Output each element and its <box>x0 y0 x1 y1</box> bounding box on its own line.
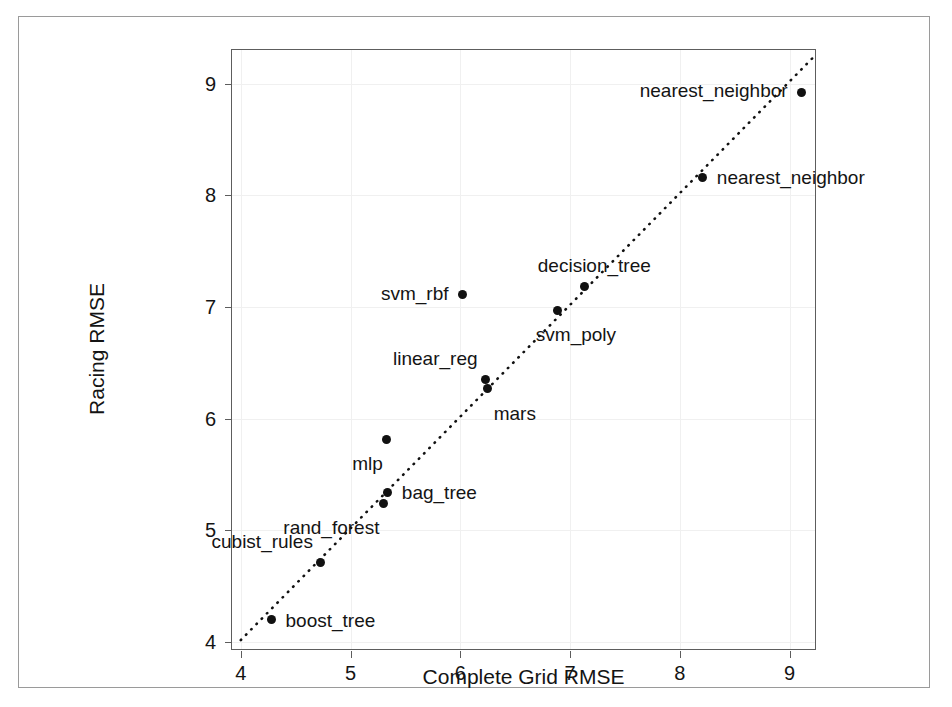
y-axis-tick-label: 6 <box>205 407 216 430</box>
point-label: cubist_rules <box>212 531 313 550</box>
y-axis-tick-label: 8 <box>205 184 216 207</box>
data-point[interactable] <box>458 290 467 299</box>
x-axis-tick <box>460 651 461 658</box>
point-label: boost_tree <box>286 610 376 629</box>
y-axis-tick <box>225 307 232 308</box>
data-point[interactable] <box>383 488 392 497</box>
data-point[interactable] <box>267 615 276 624</box>
gridline-vertical <box>790 50 791 649</box>
x-axis-tick <box>680 651 681 658</box>
data-point[interactable] <box>316 558 325 567</box>
y-axis-tick-label: 9 <box>205 72 216 95</box>
point-label: svm_poly <box>536 325 616 344</box>
y-axis-tick <box>225 84 232 85</box>
data-point[interactable] <box>797 88 806 97</box>
point-label: svm_rbf <box>381 283 449 302</box>
point-label: bag_tree <box>402 483 477 502</box>
gridline-vertical <box>680 50 681 649</box>
data-point[interactable] <box>698 173 707 182</box>
point-label: nearest_neighbor <box>717 168 865 187</box>
data-point[interactable] <box>382 435 391 444</box>
gridline-horizontal <box>232 642 815 643</box>
y-axis-tick <box>225 642 232 643</box>
point-label: decision_tree <box>538 255 651 274</box>
x-axis-tick <box>570 651 571 658</box>
y-axis-tick <box>225 419 232 420</box>
point-label: mars <box>494 404 536 423</box>
x-axis-tick <box>790 651 791 658</box>
data-point[interactable] <box>483 384 492 393</box>
scatter-plot-panel: nearest_neighbornearest_neighbordecision… <box>231 49 816 650</box>
y-axis-tick <box>225 530 232 531</box>
y-axis-title: Racing RMSE <box>85 283 109 415</box>
x-axis-tick <box>241 651 242 658</box>
data-point[interactable] <box>580 282 589 291</box>
y-axis-tick-label: 7 <box>205 295 216 318</box>
y-axis-tick-label: 4 <box>205 631 216 654</box>
x-axis-tick <box>351 651 352 658</box>
gridline-vertical <box>570 50 571 649</box>
data-point[interactable] <box>481 375 490 384</box>
figure-frame: nearest_neighbornearest_neighbordecision… <box>18 16 930 688</box>
point-label: nearest_neighbor <box>640 81 788 100</box>
data-point[interactable] <box>553 306 562 315</box>
point-label: linear_reg <box>393 348 478 367</box>
gridline-vertical <box>351 50 352 649</box>
data-point[interactable] <box>379 499 388 508</box>
point-label: mlp <box>352 453 383 472</box>
y-axis-tick-label: 5 <box>205 519 216 542</box>
gridline-horizontal <box>232 307 815 308</box>
y-axis-tick <box>225 195 232 196</box>
x-axis-title: Complete Grid RMSE <box>231 665 816 689</box>
gridline-horizontal <box>232 195 815 196</box>
gridline-vertical <box>241 50 242 649</box>
